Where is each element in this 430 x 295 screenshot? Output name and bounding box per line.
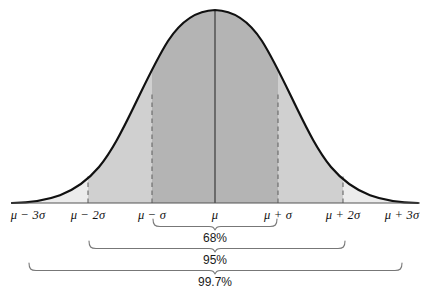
percentage-label-68: 68%: [203, 231, 227, 245]
axis-label-minus-2-sigma: μ − 2σ: [71, 208, 106, 223]
axis-label-minus-1-sigma: μ − σ: [138, 208, 166, 223]
band-middle-right: [278, 0, 343, 203]
normal-distribution-figure: μ − 3σ μ − 2σ μ − σ μ μ + σ μ + 2σ μ + 3…: [0, 0, 430, 295]
band-middle-left: [88, 0, 152, 203]
band-outer-right: [343, 0, 402, 203]
percentage-label-997: 99.7%: [198, 275, 232, 289]
axis-label-mu: μ: [212, 208, 218, 223]
axis-label-plus-3-sigma: μ + 3σ: [385, 208, 420, 223]
axis-label-minus-3-sigma: μ − 3σ: [11, 208, 46, 223]
band-outer-left: [28, 0, 88, 203]
axis-label-plus-2-sigma: μ + 2σ: [326, 208, 361, 223]
axis-label-plus-1-sigma: μ + σ: [264, 208, 292, 223]
distribution-plot: [0, 0, 430, 295]
percentage-label-95: 95%: [203, 253, 227, 267]
